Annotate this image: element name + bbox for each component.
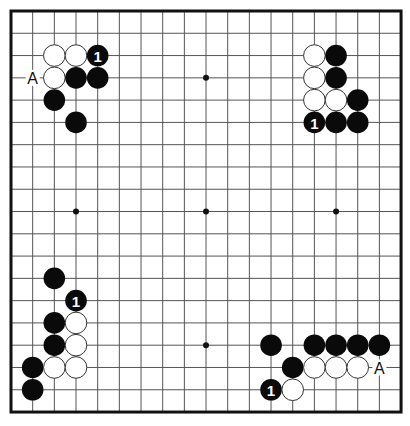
black-stone <box>325 112 347 134</box>
star-point <box>73 209 79 215</box>
black-stone <box>65 67 87 89</box>
move-1-black-stone: 1 <box>304 112 326 134</box>
star-point <box>203 209 209 215</box>
black-stone <box>325 67 347 89</box>
go-board: AA 1111 <box>0 0 410 426</box>
move-number: 1 <box>267 382 275 399</box>
black-stone <box>22 379 44 401</box>
white-stone <box>44 67 66 89</box>
white-stone <box>325 357 347 379</box>
black-stone <box>282 357 304 379</box>
white-stone <box>44 357 66 379</box>
white-stone <box>325 89 347 111</box>
white-stone <box>304 67 326 89</box>
letter-mark-a: A <box>26 70 40 88</box>
black-stone <box>369 334 391 356</box>
svg-text:A: A <box>27 70 38 87</box>
black-stone <box>325 45 347 67</box>
black-stone <box>65 112 87 134</box>
white-stone <box>347 357 369 379</box>
white-stone <box>304 45 326 67</box>
move-number: 1 <box>310 115 318 132</box>
white-stone <box>44 45 66 67</box>
white-stone <box>304 357 326 379</box>
black-stone <box>304 334 326 356</box>
star-point <box>333 209 339 215</box>
white-stone <box>282 379 304 401</box>
black-stone <box>44 89 66 111</box>
white-stone <box>65 45 87 67</box>
move-number: 1 <box>94 48 102 65</box>
move-1-black-stone: 1 <box>87 45 109 67</box>
move-1-black-stone: 1 <box>260 379 282 401</box>
black-stone <box>347 112 369 134</box>
black-stone <box>347 334 369 356</box>
black-stone <box>325 334 347 356</box>
move-number: 1 <box>72 293 80 310</box>
move-1-black-stone: 1 <box>65 290 87 312</box>
svg-text:A: A <box>374 360 385 377</box>
white-stone <box>65 357 87 379</box>
black-stone <box>87 67 109 89</box>
white-stone <box>304 89 326 111</box>
white-stone <box>65 312 87 334</box>
black-stone <box>260 334 282 356</box>
letter-mark-a: A <box>372 359 386 377</box>
go-board-diagram: AA 1111 <box>0 0 410 426</box>
black-stone <box>22 357 44 379</box>
star-point <box>203 342 209 348</box>
black-stone <box>44 312 66 334</box>
black-stone <box>347 89 369 111</box>
black-stone <box>44 334 66 356</box>
star-point <box>203 75 209 81</box>
black-stone <box>44 268 66 290</box>
white-stone <box>65 334 87 356</box>
